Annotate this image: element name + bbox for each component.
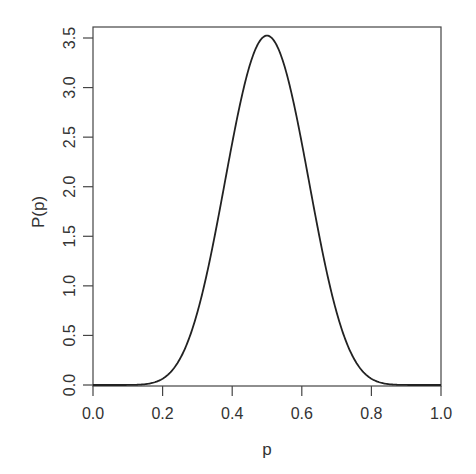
- density-curve: [93, 36, 441, 385]
- plot-frame: [93, 27, 441, 386]
- x-tick-label: 1.0: [430, 405, 452, 422]
- x-tick-label: 0.2: [151, 405, 173, 422]
- x-tick-label: 0.4: [221, 405, 243, 422]
- plot-area: 0.00.20.40.60.81.00.00.51.01.52.02.53.03…: [61, 27, 452, 422]
- y-tick-label: 3.5: [61, 27, 78, 49]
- y-tick-label: 2.5: [61, 126, 78, 148]
- x-axis-title: p: [262, 440, 271, 459]
- y-axis-title: P(p): [29, 196, 48, 228]
- y-tick-label: 3.0: [61, 76, 78, 98]
- x-tick-label: 0.6: [291, 405, 313, 422]
- chart: 0.00.20.40.60.81.00.00.51.01.52.02.53.03…: [0, 0, 476, 474]
- y-tick-label: 1.0: [61, 275, 78, 297]
- x-tick-label: 0.0: [82, 405, 104, 422]
- y-tick-label: 1.5: [61, 225, 78, 247]
- y-tick-label: 2.0: [61, 175, 78, 197]
- x-tick-label: 0.8: [360, 405, 382, 422]
- y-tick-label: 0.5: [61, 324, 78, 346]
- y-tick-label: 0.0: [61, 374, 78, 396]
